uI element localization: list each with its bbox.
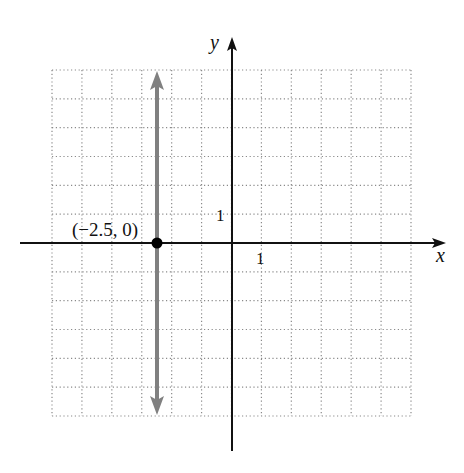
x-tick-label-1: 1	[256, 249, 265, 268]
x-axis-label: x	[435, 244, 445, 266]
coordinate-plane: (−2.5, 0) y x 1 1	[0, 0, 464, 473]
y-tick-label-1: 1	[216, 206, 225, 225]
y-axis-label: y	[208, 31, 219, 54]
point-label: (−2.5, 0)	[72, 219, 138, 241]
point-neg-2-5-0	[152, 238, 163, 249]
